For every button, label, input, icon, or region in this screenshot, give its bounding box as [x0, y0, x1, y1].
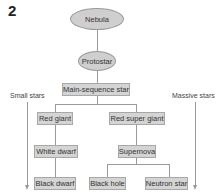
small-stars-arrow-head-icon	[25, 185, 29, 190]
node-main-sequence-star: Main-sequence star	[62, 83, 130, 96]
connector-branch-red-super-giant	[136, 104, 137, 112]
connector-red-giant-white-dwarf	[55, 125, 56, 145]
connector-main-sequence-branch	[97, 96, 98, 104]
node-supernova: Supernova	[118, 145, 156, 158]
connector-branch-black-hole	[107, 164, 108, 177]
label-massive-stars: Massive stars	[172, 92, 215, 99]
connector-nebula-protostar	[97, 30, 98, 51]
node-nebula: Nebula	[70, 8, 124, 30]
node-neutron-star: Neutron star	[145, 177, 188, 190]
connector-branch-red-giant	[55, 104, 56, 112]
node-red-super-giant: Red super giant	[109, 112, 165, 125]
connector-white-dwarf-black-dwarf	[55, 158, 56, 177]
connector-red-super-giant-supernova	[136, 125, 137, 145]
label-small-stars: Small stars	[10, 92, 45, 99]
branch-line-lower	[107, 164, 170, 165]
figure-number: 2	[8, 2, 16, 19]
node-protostar: Protostar	[78, 51, 116, 71]
massive-stars-arrow-head-icon	[193, 185, 197, 190]
node-black-dwarf: Black dwarf	[34, 177, 76, 190]
branch-line-upper	[55, 104, 137, 105]
node-red-giant: Red giant	[37, 112, 73, 125]
connector-branch-neutron-star	[169, 164, 170, 177]
node-black-hole: Black hole	[89, 177, 126, 190]
node-white-dwarf: White dwarf	[34, 145, 78, 158]
small-stars-arrow-shaft	[27, 102, 28, 186]
massive-stars-arrow-shaft	[195, 102, 196, 186]
connector-protostar-main-sequence	[97, 71, 98, 83]
